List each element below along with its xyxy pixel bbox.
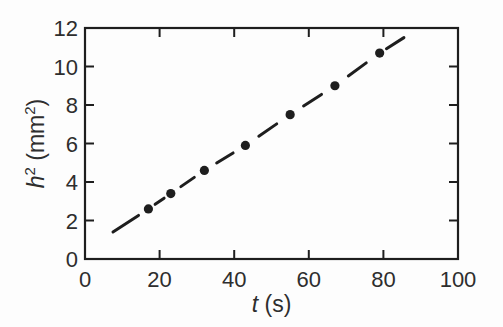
x-axis-tick-label: 40 bbox=[222, 267, 246, 292]
x-tick-labels: 020406080100 bbox=[79, 267, 476, 292]
fit-line-dash bbox=[348, 63, 366, 76]
x-axis-tick-label: 60 bbox=[297, 267, 321, 292]
y-axis-tick-label: 4 bbox=[66, 170, 78, 195]
y-axis-tick-label: 10 bbox=[54, 55, 78, 80]
data-point bbox=[241, 141, 250, 150]
y-axis-tick-label: 6 bbox=[66, 132, 78, 157]
data-point bbox=[144, 204, 153, 213]
x-axis-tick-label: 80 bbox=[371, 267, 395, 292]
data-point bbox=[330, 81, 339, 90]
data-point bbox=[286, 110, 295, 119]
fit-line-dash bbox=[259, 124, 277, 136]
x-axis-tick-label: 20 bbox=[147, 267, 171, 292]
data-point bbox=[166, 189, 175, 198]
fit-line-dash bbox=[155, 198, 164, 204]
fit-line-dash bbox=[181, 177, 194, 186]
x-axis-title: t (s) bbox=[252, 291, 292, 317]
y-tick-labels: 024681012 bbox=[54, 16, 78, 272]
plot-border bbox=[85, 28, 458, 259]
scatter-plot-figure: 020406080100024681012t (s)h2 (mm2) bbox=[0, 0, 503, 327]
fit-line-dash bbox=[113, 215, 139, 232]
y-axis-tick-label: 2 bbox=[66, 209, 78, 234]
y-axis-tick-label: 8 bbox=[66, 93, 78, 118]
h-squared-vs-time-chart: 020406080100024681012t (s)h2 (mm2) bbox=[0, 0, 503, 327]
fit-line-dash bbox=[386, 38, 403, 49]
y-axis-title: h2 (mm2) bbox=[21, 99, 49, 189]
y-axis-tick-label: 0 bbox=[66, 247, 78, 272]
data-point bbox=[200, 166, 209, 175]
fit-line-dash bbox=[304, 94, 322, 106]
fit-line bbox=[113, 38, 404, 232]
x-axis-tick-label: 0 bbox=[79, 267, 91, 292]
y-axis-tick-label: 12 bbox=[54, 16, 78, 41]
axis-ticks bbox=[85, 28, 458, 259]
data-point bbox=[375, 48, 384, 57]
fit-line-dash bbox=[217, 153, 233, 163]
x-axis-tick-label: 100 bbox=[440, 267, 477, 292]
